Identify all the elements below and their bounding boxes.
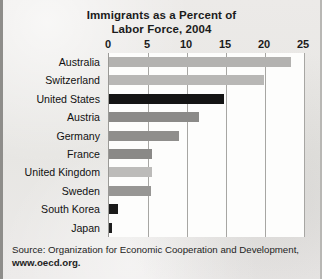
- bar-row: [109, 182, 304, 200]
- bar-australia: [109, 57, 291, 67]
- category-label-united-states: United States: [0, 90, 104, 108]
- bar-united-kingdom: [109, 167, 152, 177]
- bar-germany: [109, 131, 179, 141]
- category-label-germany: Germany: [0, 127, 104, 145]
- bar-france: [109, 149, 152, 159]
- bar-switzerland: [109, 75, 264, 85]
- bar-row: [109, 108, 304, 126]
- x-tick-label-20: 20: [258, 38, 270, 50]
- category-label-united-kingdom: United Kingdom: [0, 163, 104, 181]
- category-label-switzerland: Switzerland: [0, 71, 104, 89]
- category-label-france: France: [0, 145, 104, 163]
- bar-sweden: [109, 186, 151, 196]
- category-label-australia: Australia: [0, 53, 104, 71]
- bar-united-states: [109, 94, 224, 104]
- bar-row: [109, 145, 304, 163]
- source-note: Source: Organization for Economic Cooper…: [12, 243, 312, 269]
- bar-rows: [109, 53, 304, 237]
- category-label-sweden: Sweden: [0, 182, 104, 200]
- x-tick-label-25: 25: [297, 38, 309, 50]
- bar-south-korea: [109, 204, 118, 214]
- y-axis-category-labels: AustraliaSwitzerlandUnited StatesAustria…: [3, 53, 104, 237]
- chart-title: Immigrants as a Percent of Labor Force, …: [3, 9, 320, 36]
- category-label-japan: Japan: [0, 219, 104, 237]
- chart-title-line-2: Labor Force, 2004: [3, 23, 320, 37]
- bar-row: [109, 71, 304, 89]
- category-label-south-korea: South Korea: [0, 200, 104, 218]
- bar-austria: [109, 112, 199, 122]
- gridline-25: [304, 53, 305, 237]
- bar-row: [109, 219, 304, 237]
- bar-row: [109, 127, 304, 145]
- bar-japan: [109, 223, 112, 233]
- bar-row: [109, 163, 304, 181]
- bar-row: [109, 90, 304, 108]
- bar-row: [109, 200, 304, 218]
- source-note-line-1: Source: Organization for Economic Cooper…: [12, 244, 299, 255]
- bar-row: [109, 53, 304, 71]
- chart-figure: Immigrants as a Percent of Labor Force, …: [0, 0, 322, 279]
- category-label-austria: Austria: [0, 108, 104, 126]
- plot-area: [108, 53, 304, 237]
- source-note-line-2: www.oecd.org.: [12, 256, 312, 269]
- x-tick-label-5: 5: [144, 38, 150, 50]
- x-tick-label-0: 0: [105, 38, 111, 50]
- x-tick-label-10: 10: [180, 38, 192, 50]
- x-tick-label-15: 15: [219, 38, 231, 50]
- chart-title-line-1: Immigrants as a Percent of: [3, 9, 320, 23]
